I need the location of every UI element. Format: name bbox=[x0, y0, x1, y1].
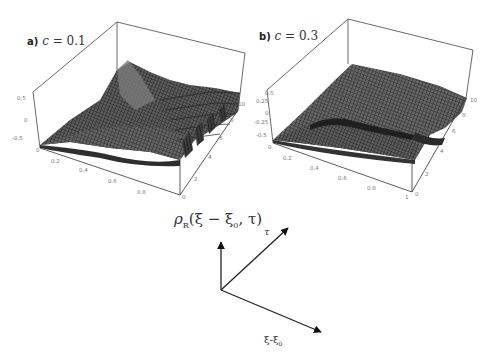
svg-text:-0.5: -0.5 bbox=[256, 132, 267, 138]
svg-text:8: 8 bbox=[462, 112, 466, 118]
vertical-axis-label: ρR(ξ − ξ0, τ) bbox=[174, 210, 262, 230]
svg-text:10: 10 bbox=[470, 97, 477, 103]
xi-axis-arrow bbox=[221, 290, 321, 332]
svg-text:0.2: 0.2 bbox=[51, 158, 60, 164]
svg-text:6: 6 bbox=[219, 135, 223, 141]
plot-a-z-ticks: 0.5 0 -0.5 bbox=[12, 95, 28, 141]
svg-text:0.4: 0.4 bbox=[79, 167, 88, 173]
svg-text:0.8: 0.8 bbox=[137, 189, 146, 195]
svg-text:2: 2 bbox=[425, 171, 429, 177]
svg-text:4: 4 bbox=[208, 154, 212, 160]
svg-text:0: 0 bbox=[415, 191, 419, 197]
svg-text:0: 0 bbox=[268, 144, 272, 150]
plot-b-surface bbox=[273, 64, 467, 164]
svg-text:8: 8 bbox=[230, 117, 234, 123]
svg-text:0.2: 0.2 bbox=[283, 155, 292, 161]
svg-text:0.25: 0.25 bbox=[256, 98, 269, 104]
axes-orientation-diagram bbox=[221, 228, 321, 332]
svg-text:-0.25: -0.25 bbox=[254, 119, 269, 125]
svg-text:10: 10 bbox=[238, 101, 245, 107]
svg-text:0: 0 bbox=[24, 117, 28, 123]
svg-text:0.5: 0.5 bbox=[265, 90, 274, 96]
xi-axis-label: ξ-ξ0 bbox=[264, 334, 282, 347]
svg-text:-0.5: -0.5 bbox=[12, 135, 23, 141]
svg-text:0.8: 0.8 bbox=[367, 185, 376, 191]
svg-text:1: 1 bbox=[405, 194, 409, 200]
plot-b-z-ticks: 0.5 0.25 0 -0.25 -0.5 bbox=[254, 90, 274, 138]
svg-text:0: 0 bbox=[36, 147, 40, 153]
svg-text:2: 2 bbox=[194, 176, 198, 182]
svg-text:0: 0 bbox=[265, 110, 269, 116]
svg-text:0.4: 0.4 bbox=[310, 165, 319, 171]
svg-text:4: 4 bbox=[440, 148, 444, 154]
svg-text:0.6: 0.6 bbox=[338, 175, 347, 181]
surface-plot-a: 0.5 0 -0.5 0 0.2 0.4 0.6 0.8 0 2 4 6 8 1… bbox=[12, 22, 245, 200]
svg-text:0.6: 0.6 bbox=[108, 178, 117, 184]
surface-plot-b: 0.5 0.25 0 -0.25 -0.5 0 0.2 0.4 0.6 0.8 … bbox=[254, 19, 477, 200]
tau-axis-arrow bbox=[221, 228, 288, 290]
svg-text:0.5: 0.5 bbox=[17, 95, 26, 101]
svg-text:0: 0 bbox=[182, 194, 186, 200]
tau-axis-label: τ bbox=[264, 226, 270, 237]
svg-text:6: 6 bbox=[452, 128, 456, 134]
